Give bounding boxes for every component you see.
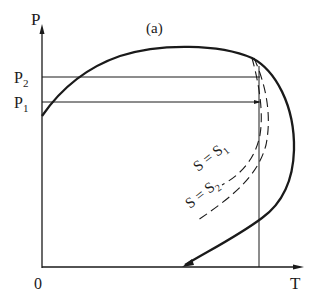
- phase-boundary-curve: [42, 47, 294, 265]
- panel-label: (a): [146, 20, 163, 37]
- p1-label: P1: [14, 94, 28, 114]
- origin-label: 0: [34, 275, 42, 292]
- isentrope-s2-label: S = S2: [182, 176, 223, 214]
- p2-label: P2: [14, 69, 28, 89]
- curve-end-arrow-icon: [182, 259, 194, 267]
- t-axis-arrow-icon: [293, 265, 304, 270]
- t-axis-label: T: [290, 274, 301, 293]
- p-axis-label: P: [31, 10, 40, 29]
- pt-diagram: P T 0 (a) P2 P1 S = S1 S = S2: [0, 0, 313, 305]
- isentrope-s1-label: S = S1: [190, 139, 231, 177]
